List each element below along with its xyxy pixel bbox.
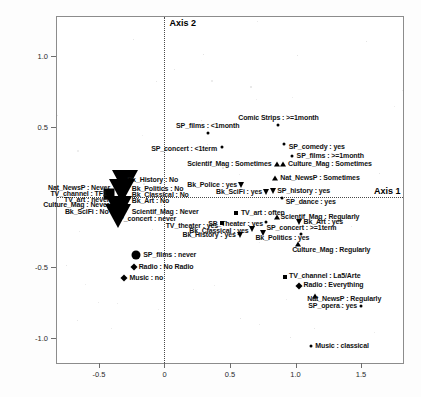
speck	[292, 97, 293, 98]
data-point-label: Culture_Mag : Sometimes	[288, 160, 372, 168]
speck	[256, 99, 257, 100]
data-point-marker	[274, 161, 280, 166]
speck	[98, 302, 99, 303]
axis-2-label: Axis 2	[169, 18, 196, 28]
speck	[394, 106, 395, 107]
speck	[142, 135, 143, 136]
x-axis-tick-label: -0.5	[92, 370, 105, 379]
data-point-label: Bk_Art : No	[132, 197, 169, 205]
data-point-marker	[220, 221, 224, 225]
data-point-marker	[283, 275, 287, 279]
data-point-label: SP_history : yes	[277, 187, 330, 195]
speck	[66, 265, 67, 266]
speck	[239, 174, 240, 175]
data-point-marker	[296, 283, 303, 290]
speck	[257, 21, 258, 22]
data-point-marker	[221, 146, 224, 149]
data-point-marker	[310, 345, 313, 348]
data-point-label: Music : no	[129, 274, 163, 282]
x-axis-tick	[296, 363, 297, 368]
data-point-label: Bk_Politics : yes	[255, 234, 309, 242]
speck	[158, 309, 159, 310]
x-axis-tick-label: 1.0	[290, 370, 300, 379]
y-axis-tick-label: 0.5	[38, 122, 48, 131]
data-point-marker	[270, 188, 276, 194]
axis-1-label: Axis 1	[374, 186, 401, 196]
data-point-marker	[234, 211, 238, 215]
data-point-marker	[280, 161, 286, 166]
y-axis-tick-label: -1.0	[35, 333, 48, 342]
speck	[259, 242, 260, 243]
speck	[297, 55, 298, 56]
data-point-label: Scientif_Mag : Sometimes	[187, 160, 271, 168]
data-point-marker	[130, 264, 137, 271]
speck	[161, 290, 162, 291]
data-point-marker	[237, 232, 243, 238]
data-point-label: SP_dance : yes	[286, 198, 336, 206]
speck	[79, 231, 80, 232]
speck	[117, 303, 118, 304]
speck	[77, 320, 78, 321]
y-axis-tick	[51, 267, 56, 268]
data-point-label: Comic Strips : >=1month	[238, 114, 319, 122]
data-point-marker	[132, 251, 141, 260]
data-point-label: Nat_NewsP : Sometimes	[280, 174, 359, 182]
data-point-label: SP_films : never	[143, 251, 196, 259]
data-point-marker	[249, 226, 255, 232]
data-point-label: Music : classical	[315, 342, 369, 350]
data-point-marker	[105, 204, 131, 228]
data-point-label: Culture_Mag : Regularly	[292, 246, 370, 254]
speck	[259, 324, 260, 325]
speck	[193, 289, 194, 290]
data-point-marker	[280, 197, 283, 200]
data-point-marker	[263, 189, 269, 195]
y-axis-tick	[51, 127, 56, 128]
data-point-label: SP_opera : yes	[308, 302, 357, 310]
data-point-label: TV_channel : La5/Arte	[289, 272, 360, 280]
x-axis-tick-label: 1.5	[356, 370, 366, 379]
data-point-marker	[290, 154, 293, 157]
data-point-marker	[274, 215, 280, 220]
speck	[111, 328, 112, 329]
plot-area: SP_films : <1monthComic Strips : >=1mont…	[56, 16, 404, 364]
x-axis-tick	[230, 363, 231, 368]
x-axis-tick-label: 0	[162, 370, 166, 379]
x-axis-tick	[99, 363, 100, 368]
speck	[286, 299, 287, 300]
speck	[379, 173, 380, 174]
speck	[374, 332, 375, 333]
data-point-marker	[121, 274, 128, 281]
data-point-marker	[206, 132, 209, 135]
data-point-label: Radio : No Radio	[139, 263, 194, 271]
data-point-label: SP_films : >=1month	[297, 152, 364, 160]
data-point-label: Radio : Everything	[303, 281, 363, 289]
y-axis-tick	[51, 338, 56, 339]
speck	[402, 90, 403, 91]
data-point-label: SP_films : <1month	[176, 122, 239, 130]
speck	[174, 69, 175, 70]
y-axis-tick-label: 1.0	[38, 52, 48, 61]
speck	[152, 229, 153, 230]
data-point-marker	[282, 143, 285, 146]
data-point-marker	[272, 176, 278, 181]
data-point-marker	[277, 123, 280, 126]
speck	[211, 80, 213, 82]
data-point-label: SP_concert : >=1term	[266, 224, 336, 232]
speck	[250, 86, 252, 88]
chart-canvas: SP_films : <1monthComic Strips : >=1mont…	[0, 0, 421, 397]
speck	[156, 81, 157, 82]
speck	[77, 150, 79, 152]
speck	[57, 115, 58, 116]
speck	[85, 284, 86, 285]
x-axis-tick	[164, 363, 165, 368]
data-point-label: Bk_SciFi : No	[65, 208, 109, 216]
data-point-label: Bk_History : yes	[183, 231, 236, 239]
speck	[290, 337, 291, 338]
data-point-marker	[360, 305, 363, 308]
speck	[133, 39, 134, 40]
data-point-label: SP_comedy : yes	[289, 143, 345, 151]
x-axis-tick-label: 0.5	[225, 370, 235, 379]
data-point-label: Bk_SciFi : yes	[216, 188, 262, 196]
y-axis-tick	[51, 56, 56, 57]
speck	[240, 318, 241, 319]
